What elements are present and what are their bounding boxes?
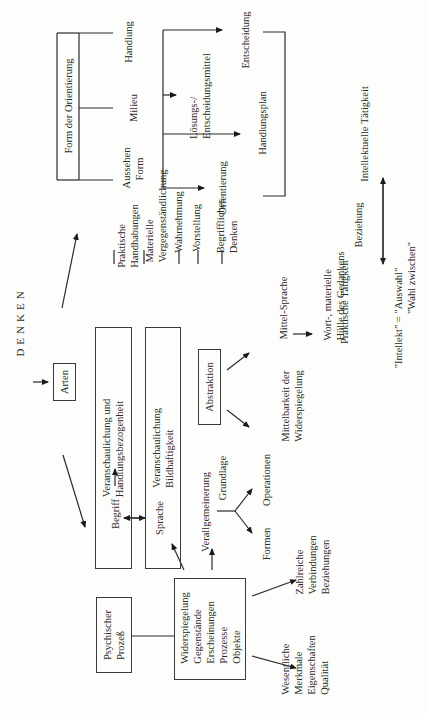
entscheidung-label: Entscheidung <box>239 11 252 68</box>
grundlage-label: Grundlage <box>216 456 229 500</box>
psychischer-prozess-label: Psychischer Prozeß <box>101 610 127 660</box>
huelle-text: Hülle des Gedankens <box>334 251 347 340</box>
materielle-label: Materielle Vergegenständlichung <box>143 169 169 262</box>
list-item: Merkmale <box>292 635 305 694</box>
list-item: Zahlreiche <box>293 536 306 595</box>
begriffliches-text: Begriffliches <box>214 199 227 254</box>
operationen-label: Operationen <box>260 454 273 506</box>
formen-label: Formen <box>260 528 273 561</box>
list-item: Prozesse <box>217 592 230 663</box>
widerspiegelung-text: Widerspiegelung <box>292 370 305 441</box>
mittelbarkeit-label: Mittelbarkeit der Widerspiegelung <box>279 370 305 441</box>
list-item: Wesentliche <box>279 635 292 694</box>
vergegenstaendlichung-text: Vergegenständlichung <box>156 169 169 262</box>
wahrnehmung-label: Wahrnehmung <box>172 191 185 253</box>
wort-text: Wort-, materielle <box>321 251 334 340</box>
handhabungen-text: Handhabungen <box>128 204 141 268</box>
begriffliches-denken-label: Begriffliches Denken <box>214 199 240 254</box>
verallgemeinerung-label: Verallgemeinerung <box>199 472 212 552</box>
intellekt-auswahl-label: "Intellekt" = "Auswahl" <box>392 268 405 369</box>
sprache-label: Sprache <box>153 501 166 535</box>
milieu-label: Milieu <box>127 94 140 122</box>
prozess-text: Prozeß <box>114 610 127 660</box>
list-item: Qualität <box>318 635 331 694</box>
beziehung-label: Beziehung <box>352 203 365 248</box>
denken-text: Denken <box>227 199 240 254</box>
box1-line1: Veranschaulichung und <box>100 399 113 497</box>
arten-label: Arten <box>58 370 71 394</box>
veranschaulichung-handlung-label: Veranschaulichung und Handlungsbezogenhe… <box>100 399 126 497</box>
form-der-orientierung-label: Form der Orientierung <box>62 58 75 153</box>
praktische-text: Praktische <box>115 204 128 268</box>
psychischer-text: Psychischer <box>101 610 114 660</box>
list-item: Objekte <box>230 592 243 663</box>
diagram-canvas: DENKEN Arten Form der Orientierung Ausse… <box>0 0 428 713</box>
list-item: Beziehungen <box>319 536 332 595</box>
list-item: Gegenstände <box>191 592 204 663</box>
intellektuelle-taetigkeit-label: Intellektuelle Tätigkeit <box>358 86 371 182</box>
mittel-sprache-label: Mittel-Sprache <box>277 277 290 340</box>
veranschaulichung-bild-label: Veranschaulichung Bildhaftigkeit <box>150 408 176 488</box>
box2-line1: Veranschaulichung <box>150 408 163 488</box>
entscheidungsmittel-text: Entscheidungsmittel <box>200 53 213 139</box>
wort-huelle-label: Wort-, materielle Hülle des Gedankens <box>321 251 347 340</box>
vorstellung-label: Vorstellung <box>190 204 203 252</box>
handlungsplan-label: Handlungsplan <box>256 91 269 155</box>
begriff-label: Begriff <box>109 499 122 529</box>
loesungsmittel-label: Lösungs-/ Entscheidungsmittel <box>187 53 213 139</box>
praktische-handhabungen-label: Praktische Handhabungen <box>115 204 141 268</box>
list-item: Verbindungen <box>306 536 319 595</box>
wesentliche-merkmale-list: Wesentliche Merkmale Eigenschaften Quali… <box>279 635 331 694</box>
wahl-zwischen-label: "Wahl zwischen" <box>405 242 418 314</box>
aussehen-text: Aussehen <box>120 148 133 189</box>
materielle-text: Materielle <box>143 169 156 262</box>
loesungs-text: Lösungs-/ <box>187 53 200 139</box>
handlung-label: Handlung <box>122 21 135 62</box>
mittelbarkeit-text: Mittelbarkeit der <box>279 370 292 441</box>
box1-line2: Handlungsbezogenheit <box>113 399 126 497</box>
list-item: Eigenschaften <box>305 635 318 694</box>
zahlreiche-verbindungen-list: Zahlreiche Verbindungen Beziehungen <box>293 536 332 595</box>
title-denken: DENKEN <box>14 287 27 356</box>
box2-line2: Bildhaftigkeit <box>163 408 176 488</box>
list-item: Erscheinungen <box>204 592 217 663</box>
list-item: Widerspiegelung <box>178 592 191 663</box>
abstraktion-label: Abstraktion <box>203 362 216 412</box>
widerspiegelung-list: Widerspiegelung Gegenstände Erscheinunge… <box>178 592 243 663</box>
